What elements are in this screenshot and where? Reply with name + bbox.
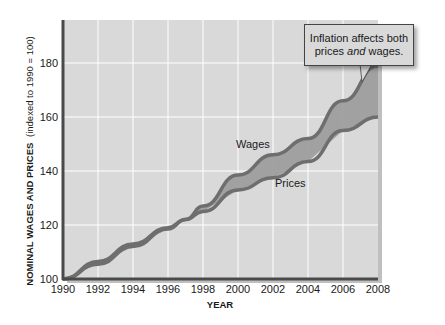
callout-line-1: Inflation affects both [305,32,413,45]
x-tick-label: 1992 [86,283,110,295]
x-tick-label: 2006 [331,283,355,295]
x-tick-label: 1998 [191,283,215,295]
y-axis-label-bold: NOMINAL WAGES AND PRICES [24,143,35,286]
x-tick-label: 2008 [366,283,390,295]
x-tick-label: 1996 [156,283,180,295]
x-tick-label: 1990 [51,283,75,295]
x-tick-label: 2002 [261,283,285,295]
callout-line-2: prices and wages. [305,45,413,58]
x-tick-label: 2000 [226,283,250,295]
prices-label: Prices [275,177,306,189]
x-tick-labels: 1990199219941996199820002002200420062008 [51,283,390,295]
y-tick-labels: 100120140160180 [40,57,58,285]
y-tick-label: 140 [40,165,58,177]
y-tick-label: 160 [40,111,58,123]
wages-label: Wages [236,138,270,150]
x-tick-label: 2004 [296,283,320,295]
y-axis-label: NOMINAL WAGES AND PRICES (indexed to 199… [24,36,35,285]
y-tick-label: 120 [40,219,58,231]
y-tick-label: 180 [40,57,58,69]
annotation-callout: Inflation affects both prices and wages. [304,24,414,66]
x-tick-label: 1994 [121,283,145,295]
x-axis-label: YEAR [207,299,234,310]
y-axis-label-normal: (indexed to 1990 = 100) [24,36,35,137]
